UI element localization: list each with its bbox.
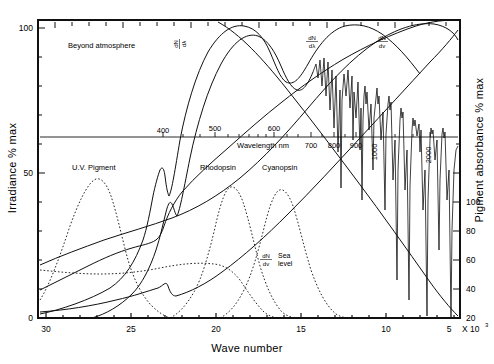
label-cyanopsin: Cyanopsin xyxy=(262,163,297,172)
wavelength-axis-title: Wavelength nm xyxy=(237,141,289,150)
label-dn-dlambda-mid-den: dλ xyxy=(309,43,315,49)
wavelength-tick-1000: 1000 xyxy=(370,144,379,161)
annotation-beyond-atmosphere: Beyond atmosphere xyxy=(68,41,135,50)
wavelength-tick-600: 600 xyxy=(268,124,281,133)
right-tick-40: 40 xyxy=(466,284,476,294)
right-axis-title: Pigment absorbance % max xyxy=(473,77,485,222)
bottom-tick-5: 5 xyxy=(447,324,452,334)
bottom-exponent: X 10 xyxy=(462,324,480,334)
bottom-tick-10: 10 xyxy=(381,324,391,334)
label-rhodopsin: Rhodopsin xyxy=(200,163,236,172)
label-uv-pigment: U.V. Pigment xyxy=(72,163,116,172)
label-dn-dlambda-top-den: dλ xyxy=(181,41,187,47)
chart-svg: 0 50 100 Irradiance % max 20 40 60 80 10… xyxy=(0,0,494,364)
label-sea-level-num: dN xyxy=(262,253,270,259)
left-tick-0: 0 xyxy=(28,313,33,323)
figure-root: 0 50 100 Irradiance % max 20 40 60 80 10… xyxy=(0,0,494,364)
label-sea-level-text-a: Sea xyxy=(278,252,291,259)
wavelength-tick-700: 700 xyxy=(305,141,318,150)
label-dn-dlambda-mid-num: dN xyxy=(308,35,316,41)
bottom-tick-30: 30 xyxy=(41,324,51,334)
wavelength-tick-500: 500 xyxy=(209,124,222,133)
right-tick-80: 80 xyxy=(466,226,476,236)
label-dn-dnu-top-num: dN xyxy=(378,35,386,41)
bottom-tick-15: 15 xyxy=(296,324,306,334)
label-sea-level-text-b: level xyxy=(278,260,293,267)
bottom-tick-25: 25 xyxy=(126,324,136,334)
right-tick-60: 60 xyxy=(466,255,476,265)
wavelength-tick-400: 400 xyxy=(157,126,170,135)
left-axis-title: Irradiance % max xyxy=(6,123,18,214)
left-tick-50: 50 xyxy=(24,168,34,178)
bottom-exponent-sup: 3 xyxy=(485,322,489,328)
label-dn-dlambda-top-num: dN xyxy=(173,40,179,48)
bottom-tick-20: 20 xyxy=(211,324,221,334)
wavelength-tick-2000: 2000 xyxy=(424,147,433,164)
label-sea-level-den: dv xyxy=(263,261,269,267)
left-tick-100: 100 xyxy=(19,23,33,33)
right-tick-20: 20 xyxy=(466,313,476,323)
bottom-axis-title: Wave number xyxy=(211,342,282,354)
label-dn-dnu-top-den: dv xyxy=(379,43,385,49)
